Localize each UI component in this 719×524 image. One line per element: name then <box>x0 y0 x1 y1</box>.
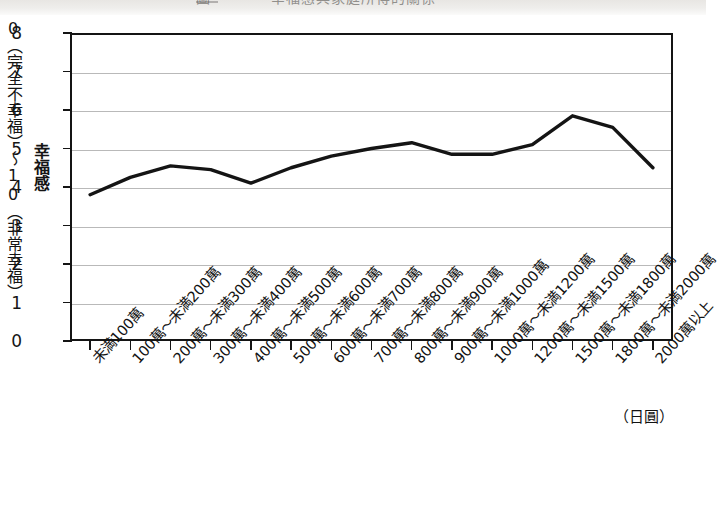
figure-title: 圖 幸福感與家庭所得的關係 <box>196 0 436 7</box>
y-tick-label-1: 1 <box>0 295 22 312</box>
y-tick-label-0: 0 <box>0 333 22 350</box>
gridline-y-4 <box>72 188 671 189</box>
y-tick-label-3: 3 <box>0 218 22 235</box>
y-tick-mark-6 <box>63 109 72 111</box>
gridline-y-3 <box>72 227 671 228</box>
y-tick-label-4: 4 <box>0 179 22 196</box>
y-tick-mark-7 <box>63 71 72 73</box>
gridline-y-5 <box>72 150 671 151</box>
y-tick-mark-4 <box>63 186 72 188</box>
y-tick-label-8: 8 <box>0 25 22 42</box>
clipped-title-bar: 圖 幸福感與家庭所得的關係 <box>0 0 706 15</box>
y-tick-mark-5 <box>63 148 72 150</box>
y-axis-title: 幸福感 <box>31 143 48 191</box>
x-axis-unit-label: （日圓） <box>614 405 674 426</box>
chart-figure: 0（完全不幸福）〜10（非常幸福） 幸福感 876543210 未満100萬10… <box>0 15 706 524</box>
y-tick-label-2: 2 <box>0 256 22 273</box>
y-tick-label-7: 7 <box>0 64 22 81</box>
y-tick-mark-0 <box>63 340 72 342</box>
gridline-y-7 <box>72 73 671 74</box>
y-tick-mark-8 <box>63 32 72 34</box>
y-tick-mark-1 <box>63 302 72 304</box>
y-tick-label-5: 5 <box>0 141 22 158</box>
y-tick-mark-2 <box>63 263 72 265</box>
y-tick-label-6: 6 <box>0 102 22 119</box>
y-tick-mark-3 <box>63 225 72 227</box>
gridline-y-6 <box>72 111 671 112</box>
